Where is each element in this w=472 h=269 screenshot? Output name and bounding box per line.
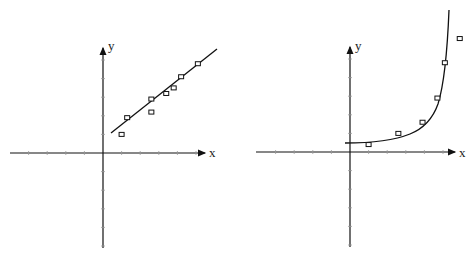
left-x-label: x <box>209 145 216 160</box>
data-point <box>442 61 447 65</box>
data-point <box>179 75 184 79</box>
data-point <box>435 96 440 100</box>
right-x-label: x <box>459 145 466 160</box>
data-point <box>195 62 200 66</box>
data-point <box>149 110 154 114</box>
data-point <box>457 37 462 41</box>
data-point <box>396 131 401 135</box>
left-y-label: y <box>108 38 115 53</box>
right-y-label: y <box>355 38 362 53</box>
right-fit-curve <box>345 10 449 143</box>
data-point <box>125 116 130 120</box>
data-point <box>149 97 154 101</box>
left-chart: x y <box>10 38 217 248</box>
data-point <box>164 91 169 95</box>
figure: x y x y <box>0 0 472 269</box>
data-point <box>119 132 124 136</box>
data-point <box>420 120 425 124</box>
data-point <box>171 86 176 90</box>
right-data-points <box>366 37 462 147</box>
right-chart: x y <box>256 10 466 247</box>
left-data-points <box>119 62 200 137</box>
data-point <box>366 143 371 147</box>
